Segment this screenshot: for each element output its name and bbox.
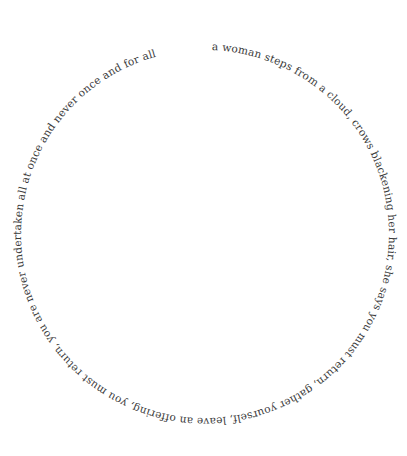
poem-textpath: a woman steps from a cloud, crows blacke…	[11, 40, 399, 428]
circular-poem: a woman steps from a cloud, crows blacke…	[0, 0, 407, 456]
poem-text-ring: a woman steps from a cloud, crows blacke…	[11, 40, 399, 428]
